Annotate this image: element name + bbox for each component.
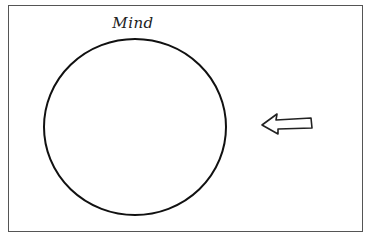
left-arrow-icon	[262, 114, 312, 134]
mind-circle	[44, 39, 226, 215]
diagram-canvas	[0, 0, 372, 240]
